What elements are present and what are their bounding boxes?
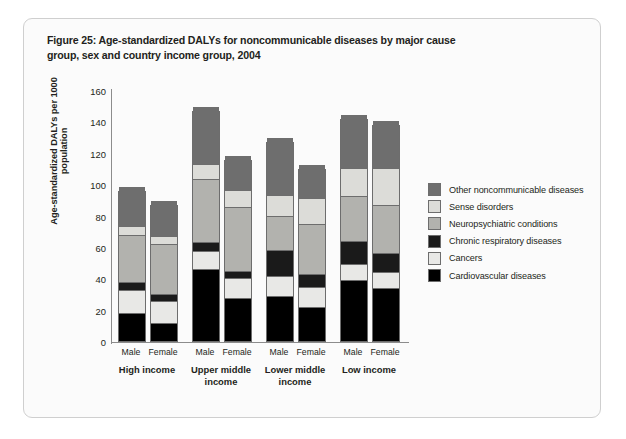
bars-container (112, 91, 408, 342)
legend-label: Cardiovascular diseases (449, 271, 546, 281)
bar-group (192, 91, 266, 342)
stacked-bar[interactable] (266, 142, 294, 342)
bar-group (340, 91, 414, 342)
bar-segment (299, 199, 325, 225)
bar-segment (267, 297, 293, 341)
bar-segment (119, 283, 145, 292)
stacked-bar[interactable] (192, 111, 220, 342)
bar-segment (193, 252, 219, 270)
bar-segment (299, 288, 325, 308)
bar-segment (341, 197, 367, 242)
x-sex-label: Female (289, 347, 333, 357)
bar-segment (225, 208, 251, 272)
bar-segment (373, 273, 399, 290)
bar-segment (225, 191, 251, 208)
legend-swatch-icon (428, 200, 441, 213)
legend-item[interactable]: Cancers (428, 250, 584, 267)
bar-segment (119, 187, 145, 227)
x-axis-line (111, 342, 409, 343)
bar-segment (373, 289, 399, 341)
legend-item[interactable]: Other noncommunicable diseases (428, 181, 584, 198)
bar-segment (373, 169, 399, 206)
bar-segment (193, 180, 219, 244)
legend-label: Chronic respiratory diseases (449, 236, 561, 246)
bar-segment (225, 272, 251, 279)
legend-swatch-icon (428, 252, 441, 265)
bar-segment (193, 107, 219, 164)
bar-group (266, 91, 340, 342)
stacked-bar[interactable] (298, 169, 326, 342)
bar-segment (267, 217, 293, 251)
legend-swatch-icon (428, 183, 441, 196)
legend-item[interactable]: Cardiovascular diseases (428, 267, 584, 284)
x-sex-label: Female (215, 347, 259, 357)
y-axis-title: Age-standardized DALYs per 1000 populati… (49, 56, 69, 246)
legend-swatch-icon (428, 269, 441, 282)
bar-segment (151, 201, 177, 237)
bar-segment (119, 314, 145, 341)
y-tick-label: 20 (80, 305, 106, 316)
figure-card: Figure 25: Age-standardized DALYs for no… (23, 18, 601, 418)
stacked-bar[interactable] (224, 160, 252, 342)
bar-segment (119, 236, 145, 282)
bar-segment (341, 169, 367, 197)
legend-label: Neuropsychiatric conditions (449, 219, 558, 229)
bar-segment (267, 196, 293, 217)
y-tick-label: 80 (80, 211, 106, 222)
bar-segment (341, 265, 367, 282)
y-tick-label: 0 (80, 337, 106, 348)
y-tick-label: 60 (80, 242, 106, 253)
legend-label: Cancers (449, 253, 482, 263)
bar-segment (373, 121, 399, 169)
y-tick-label: 160 (80, 86, 106, 97)
y-axis-ticks: 020406080100120140160 (76, 91, 106, 342)
x-group-label: Low income (323, 364, 415, 376)
stacked-bar[interactable] (150, 205, 178, 342)
y-tick-label: 40 (80, 274, 106, 285)
bar-segment (119, 291, 145, 314)
bar-segment (225, 156, 251, 192)
bar-segment (193, 243, 219, 252)
x-sex-label: Female (141, 347, 185, 357)
y-tick-label: 100 (80, 180, 106, 191)
legend-label: Other noncommunicable diseases (449, 185, 584, 195)
y-tick-label: 120 (80, 148, 106, 159)
bar-segment (151, 324, 177, 341)
bar-segment (267, 277, 293, 297)
x-sex-label: Female (363, 347, 407, 357)
bar-segment (151, 295, 177, 302)
bar-segment (299, 275, 325, 289)
bar-segment (267, 138, 293, 195)
bar-segment (151, 245, 177, 295)
legend-item[interactable]: Neuropsychiatric conditions (428, 215, 584, 232)
bar-segment (267, 251, 293, 277)
stacked-bar[interactable] (340, 119, 368, 342)
legend-item[interactable]: Sense disorders (428, 198, 584, 215)
bar-segment (299, 225, 325, 275)
legend-swatch-icon (428, 235, 441, 248)
bar-segment (299, 165, 325, 199)
bar-segment (299, 308, 325, 341)
legend-item[interactable]: Chronic respiratory diseases (428, 233, 584, 250)
bar-segment (225, 279, 251, 299)
bar-segment (341, 115, 367, 169)
bar-segment (373, 254, 399, 272)
bar-segment (341, 281, 367, 341)
bar-segment (193, 270, 219, 341)
bar-group (118, 91, 192, 342)
bar-segment (341, 242, 367, 265)
stacked-bar[interactable] (118, 191, 146, 342)
stacked-bar[interactable] (372, 125, 400, 342)
bar-segment (151, 302, 177, 323)
bar-segment (373, 206, 399, 254)
legend-label: Sense disorders (449, 202, 513, 212)
bar-segment (151, 237, 177, 246)
bar-segment (225, 299, 251, 341)
y-tick-label: 140 (80, 117, 106, 128)
bar-segment (193, 165, 219, 180)
chart-legend: Other noncommunicable diseasesSense diso… (428, 181, 584, 284)
legend-swatch-icon (428, 217, 441, 230)
bar-segment (119, 227, 145, 236)
